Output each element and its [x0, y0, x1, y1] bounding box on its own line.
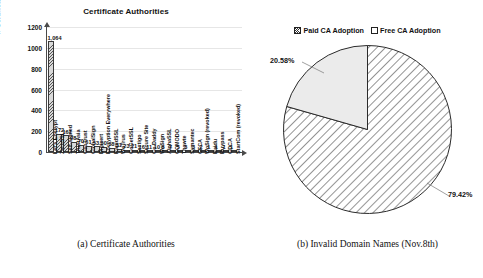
- pie-value-free: 20.58%: [270, 56, 294, 65]
- bar-value-label: 1,064: [48, 35, 62, 41]
- y-tick-label: 200: [31, 128, 42, 135]
- x-tick-label: GeoTrust: [82, 130, 88, 154]
- y-axis-title: # Certificate: [0, 0, 1, 34]
- x-tick-label: Symantec: [189, 129, 195, 154]
- bar-chart-panel: Certificate Authorities 1,06417216198706…: [0, 0, 252, 278]
- figure-root: Certificate Authorities 1,06417216198706…: [0, 0, 483, 278]
- y-tick-label: 1000: [28, 44, 42, 51]
- y-tick-label: 0: [38, 149, 42, 156]
- x-tick-label: Secure Site: [143, 125, 149, 154]
- y-tick-label: 1200: [28, 24, 42, 31]
- x-tick-label: Baidu: [212, 139, 218, 154]
- x-tick-label: Encryption Everywhere: [105, 94, 111, 154]
- x-tick-label: GlobalSign: [90, 126, 96, 154]
- subfigure-caption-a: (a) Certificate Authorities: [0, 239, 252, 249]
- pie-svg: [280, 42, 455, 217]
- legend-label-free: Free CA Adoption: [380, 26, 441, 35]
- x-tick-label: COMODO: [174, 129, 180, 154]
- x-tick-label: StartCom (revoked): [235, 104, 241, 154]
- y-tick-label: 800: [31, 65, 42, 72]
- x-tick-label: Thawte: [181, 135, 187, 154]
- x-tick-label: Go Daddy: [151, 129, 157, 154]
- pie-graphic: [280, 42, 455, 217]
- x-tick-label: GoGetSSL: [128, 127, 134, 154]
- x-tick-label: RapidSSL: [113, 129, 119, 154]
- x-tick-label: TrustAsia: [75, 129, 81, 154]
- y-axis-ticks: 020040060080010001200: [0, 27, 46, 152]
- x-tick-label: AlphaSSL: [166, 129, 172, 154]
- subfigure-caption-b: (b) Invalid Domain Names (Nov.8th): [252, 239, 483, 249]
- legend-item-free: Free CA Adoption: [371, 26, 441, 35]
- x-tick-label: WoSign: [159, 134, 165, 154]
- pie-chart-panel: Paid CA Adoption Free CA Adoption: [252, 0, 483, 278]
- x-tick-label: Let's Encrypt: [52, 120, 58, 154]
- x-tick-label: ZeroSSL: [59, 132, 65, 154]
- x-tick-label: Buypass: [219, 132, 225, 154]
- x-tick-label: Digicert: [98, 134, 104, 154]
- x-tick-label: Self-signed: [67, 125, 73, 154]
- legend-item-paid: Paid CA Adoption: [294, 26, 364, 35]
- pie-value-paid: 79.42%: [448, 190, 472, 199]
- x-tick-label: Sectigo: [136, 135, 142, 154]
- x-tick-label: WoSign (revoked): [204, 108, 210, 154]
- legend-label-paid: Paid CA Adoption: [303, 26, 364, 35]
- x-axis-tick-labels: Let's EncryptZeroSSLSelf-signedTrustAsia…: [47, 154, 247, 234]
- pie-legend: Paid CA Adoption Free CA Adoption: [252, 26, 483, 35]
- plain-swatch-icon: [371, 27, 378, 34]
- x-tick-label: WoTrus: [120, 134, 126, 154]
- x-tick-label: GDCA: [227, 138, 233, 154]
- x-tick-label: CFCA: [197, 139, 203, 154]
- y-tick-label: 600: [31, 86, 42, 93]
- hatched-swatch-icon: [294, 27, 301, 34]
- bar-chart-title: Certificate Authorities: [0, 7, 252, 16]
- y-tick-label: 400: [31, 107, 42, 114]
